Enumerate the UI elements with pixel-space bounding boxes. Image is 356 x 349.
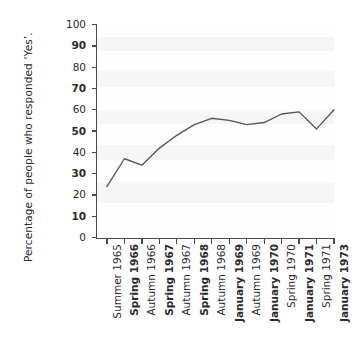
line-chart-figure: Percentage of people who responded ‘Yes’… <box>0 0 356 349</box>
data-series-line <box>0 0 356 349</box>
